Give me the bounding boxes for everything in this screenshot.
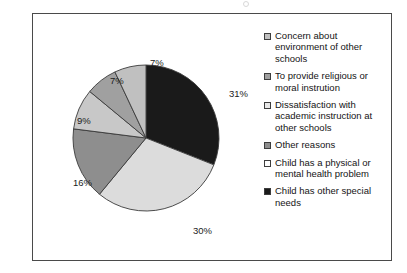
chart-frame: 31%30%16%9%7%7% Concern about environmen… xyxy=(32,13,392,261)
legend-item-label: Child has other special needs xyxy=(275,185,392,208)
legend-item[interactable]: Child has a physical or mental health pr… xyxy=(264,157,392,180)
legend-color-swatch xyxy=(264,33,271,40)
legend-divider xyxy=(261,14,262,260)
legend-item[interactable]: Concern about environment of other schoo… xyxy=(264,30,392,64)
legend-item-label: To provide religious or moral instrution xyxy=(275,70,392,93)
pie-slice-percentage-label: 7% xyxy=(110,75,124,86)
legend-item[interactable]: Child has other special needs xyxy=(264,185,392,208)
legend-color-swatch xyxy=(264,188,271,195)
scan-artifact-speck xyxy=(243,1,249,7)
chart-legend: Concern about environment of other schoo… xyxy=(261,14,392,260)
legend-color-swatch xyxy=(264,102,271,109)
pie-slice-percentage-label: 30% xyxy=(193,225,212,236)
legend-color-swatch xyxy=(264,160,271,167)
legend-item[interactable]: Other reasons xyxy=(264,139,392,150)
legend-color-swatch xyxy=(264,142,271,149)
legend-item-label: Child has a physical or mental health pr… xyxy=(275,157,392,180)
pie-slice-percentage-label: 9% xyxy=(77,115,91,126)
pie-chart-svg xyxy=(33,14,261,260)
pie-slice-percentage-label: 7% xyxy=(150,57,164,68)
legend-color-swatch xyxy=(264,73,271,80)
pie-chart-plot-area: 31%30%16%9%7%7% xyxy=(33,14,261,260)
pie-slice-percentage-label: 16% xyxy=(73,177,92,188)
legend-item-list: Concern about environment of other schoo… xyxy=(264,30,392,214)
pie-slice-percentage-label: 31% xyxy=(229,88,248,99)
legend-item[interactable]: Dissatisfaction with academic instructio… xyxy=(264,99,392,133)
legend-item-label: Dissatisfaction with academic instructio… xyxy=(275,99,392,133)
legend-item[interactable]: To provide religious or moral instrution xyxy=(264,70,392,93)
legend-item-label: Other reasons xyxy=(275,139,335,150)
legend-item-label: Concern about environment of other schoo… xyxy=(275,30,392,64)
